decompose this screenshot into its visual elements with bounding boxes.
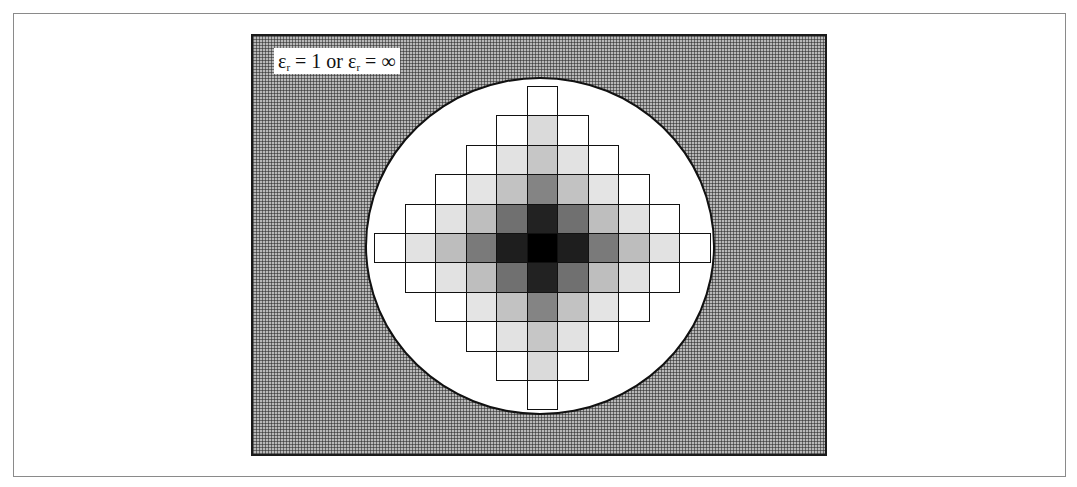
grid-cell	[405, 233, 437, 263]
label-suffix: = ∞	[360, 50, 396, 72]
grid-cell	[588, 145, 620, 175]
grid-cell	[527, 174, 559, 204]
grid-cell	[557, 292, 589, 322]
grid-cell	[588, 262, 620, 292]
grid-cell	[557, 204, 589, 234]
grid-cell	[527, 380, 559, 410]
grid-cell	[618, 204, 650, 234]
label-mid: = 1 or ε	[290, 50, 356, 72]
grid-cell	[679, 233, 711, 263]
grid-cell	[557, 145, 589, 175]
grid-cell	[649, 233, 681, 263]
grid-cell	[435, 233, 467, 263]
grid-cell	[618, 262, 650, 292]
permittivity-label: εr = 1 or εr = ∞	[274, 48, 400, 74]
grid-cell	[557, 351, 589, 381]
grid-cell	[374, 233, 406, 263]
grid-cell	[466, 321, 498, 351]
outer-medium-region: εr = 1 or εr = ∞	[251, 34, 827, 456]
grid-cell	[466, 174, 498, 204]
grid-cell	[588, 233, 620, 263]
grid-cell	[466, 204, 498, 234]
grid-cell	[618, 292, 650, 322]
grid-cell	[496, 115, 528, 145]
grid-cell	[496, 262, 528, 292]
grid-cell	[466, 145, 498, 175]
grid-cell	[435, 204, 467, 234]
grid-cell	[496, 292, 528, 322]
grid-cell	[618, 233, 650, 263]
grid-cell	[618, 174, 650, 204]
grid-cell	[557, 233, 589, 263]
grid-cell	[527, 233, 559, 263]
grid-cell	[527, 292, 559, 322]
grid-cell	[496, 204, 528, 234]
grid-cell	[435, 174, 467, 204]
grid-cell	[435, 292, 467, 322]
grid-cell	[527, 351, 559, 381]
grid-cell	[496, 321, 528, 351]
grid-cell	[466, 233, 498, 263]
grid-cell	[588, 204, 620, 234]
grid-cell	[557, 174, 589, 204]
grid-cell	[527, 204, 559, 234]
grid-cell	[557, 321, 589, 351]
grid-cell	[527, 321, 559, 351]
grid-cell	[527, 145, 559, 175]
grid-cell	[496, 351, 528, 381]
grid-cell	[466, 292, 498, 322]
grid-cell	[405, 262, 437, 292]
grid-cell	[466, 262, 498, 292]
grid-cell	[527, 115, 559, 145]
grid-cell	[649, 262, 681, 292]
grid-cell	[557, 115, 589, 145]
grid-cell	[557, 262, 589, 292]
grid-cell	[588, 292, 620, 322]
discretization-grid	[253, 36, 825, 454]
grid-cell	[527, 86, 559, 116]
grid-cell	[588, 321, 620, 351]
grid-cell	[588, 174, 620, 204]
grid-cell	[527, 262, 559, 292]
grid-cell	[649, 204, 681, 234]
grid-cell	[435, 262, 467, 292]
grid-cell	[405, 204, 437, 234]
grid-cell	[496, 174, 528, 204]
grid-cell	[496, 233, 528, 263]
grid-cell	[496, 145, 528, 175]
